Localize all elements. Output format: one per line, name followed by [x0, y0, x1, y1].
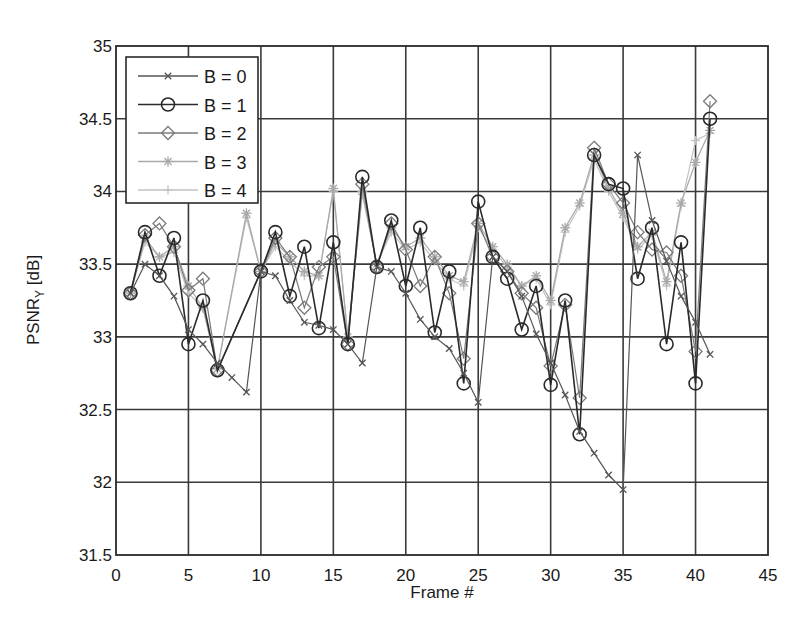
marker-x-icon: [707, 351, 713, 357]
y-tick-label: 32.5: [79, 401, 112, 420]
marker-star-icon: [241, 208, 251, 218]
marker-plus-icon: [691, 136, 700, 145]
y-tick-label: 32: [93, 473, 112, 492]
marker-star-icon: [560, 223, 570, 233]
legend-label: B = 0: [204, 67, 247, 87]
marker-star-icon: [328, 184, 338, 194]
marker-star-icon: [575, 198, 585, 208]
marker-x-icon: [229, 374, 235, 380]
legend-label: B = 1: [204, 96, 247, 116]
y-axis-label-subscript: Y: [33, 290, 47, 298]
marker-star-icon: [546, 296, 556, 306]
marker-x-icon: [678, 293, 684, 299]
marker-x-icon: [446, 345, 452, 351]
y-tick-label: 33.5: [79, 255, 112, 274]
x-tick-label: 40: [686, 566, 705, 585]
y-tick-label: 31.5: [79, 546, 112, 565]
y-axis-label-unit: [dB]: [24, 255, 43, 290]
marker-star-icon: [691, 157, 701, 167]
y-tick-label: 34: [93, 182, 112, 201]
marker-star-icon: [163, 157, 173, 167]
y-tick-label: 34.5: [79, 110, 112, 129]
x-tick-label: 0: [111, 566, 120, 585]
marker-x-icon: [171, 293, 177, 299]
x-tick-label: 10: [251, 566, 270, 585]
legend-label: B = 2: [204, 124, 247, 144]
marker-x-icon: [272, 273, 278, 279]
legend-label: B = 4: [204, 181, 247, 201]
legend: B = 0B = 1B = 2B = 3B = 4: [126, 57, 258, 203]
marker-star-icon: [676, 198, 686, 208]
x-tick-label: 5: [184, 566, 193, 585]
y-tick-label: 35: [93, 37, 112, 56]
x-tick-label: 15: [324, 566, 343, 585]
legend-label: B = 3: [204, 153, 247, 173]
x-tick-label: 30: [541, 566, 560, 585]
marker-star-icon: [459, 277, 469, 287]
marker-x-icon: [417, 316, 423, 322]
y-axis-label: PSNRY [dB]: [24, 255, 47, 345]
x-axis-label: Frame #: [410, 583, 474, 602]
marker-x-icon: [591, 450, 597, 456]
x-tick-label: 35: [614, 566, 633, 585]
x-tick-label: 45: [759, 566, 778, 585]
marker-x-icon: [388, 268, 394, 274]
psnr-line-chart: 05101520253035404531.53232.53333.53434.5…: [0, 0, 809, 629]
marker-x-icon: [562, 392, 568, 398]
marker-star-icon: [154, 252, 164, 262]
marker-star-icon: [662, 277, 672, 287]
marker-x-icon: [200, 341, 206, 347]
y-tick-label: 33: [93, 328, 112, 347]
marker-x-icon: [605, 472, 611, 478]
y-axis-label-main: PSNR: [24, 298, 43, 345]
